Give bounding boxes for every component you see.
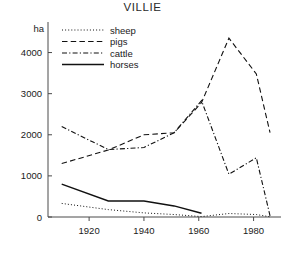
chart-figure: VILLIE 01000200030004000 ha 192019401960… <box>0 0 285 253</box>
chart-legend: sheeppigscattlehorses <box>62 25 139 71</box>
x-axis-ticks <box>89 217 253 221</box>
y-axis-unit-label: ha <box>33 23 44 34</box>
x-tick-label: 1940 <box>133 225 154 236</box>
y-tick-label: 2000 <box>21 129 42 140</box>
series-line-sheep <box>62 203 270 216</box>
legend-label-cattle: cattle <box>110 48 133 59</box>
y-tick-label: 4000 <box>21 47 42 58</box>
x-tick-label: 1960 <box>188 225 209 236</box>
series-line-horses <box>62 184 202 213</box>
series-line-pigs <box>62 38 270 163</box>
y-tick-label: 0 <box>37 212 42 223</box>
legend-label-pigs: pigs <box>110 36 128 47</box>
x-tick-label: 1980 <box>243 225 264 236</box>
x-axis-tick-labels: 1920194019601980 <box>79 225 265 236</box>
legend-label-horses: horses <box>110 59 139 70</box>
y-tick-label: 1000 <box>21 170 42 181</box>
y-axis-ticks <box>48 53 52 217</box>
series-line-cattle <box>62 101 270 216</box>
x-tick-label: 1920 <box>79 225 100 236</box>
y-axis-tick-labels: 01000200030004000 <box>21 47 42 222</box>
y-tick-label: 3000 <box>21 88 42 99</box>
chart-plot-area: 01000200030004000 ha 1920194019601980 sh… <box>0 0 285 253</box>
legend-label-sheep: sheep <box>110 25 136 36</box>
